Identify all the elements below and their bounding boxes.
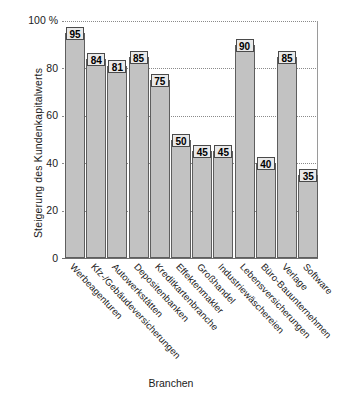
y-axis-title: Steigerung des Kundenkapitalwerts — [32, 53, 44, 253]
plot-baseline — [62, 258, 318, 259]
x-axis-tick-labels: WerbeagenturenKfz-/Gebäudeversicherungen… — [62, 261, 342, 371]
bar-value-label: 90 — [236, 39, 254, 52]
bar-value-label: 35 — [299, 169, 317, 182]
plot-area: 958481857550454590408535 — [62, 21, 318, 258]
bar-value-label: 40 — [257, 157, 275, 170]
bar-rect — [129, 57, 149, 258]
x-axis-title: Branchen — [0, 377, 342, 389]
bar-series: 958481857550454590408535 — [62, 21, 318, 258]
y-tick-100: 100 % — [12, 14, 58, 26]
bar-value-label: 84 — [87, 53, 105, 66]
bar-rect — [86, 59, 106, 258]
y-tick-0: 0 — [12, 252, 58, 264]
bar-value-label: 50 — [172, 134, 190, 147]
bar-rect — [192, 151, 212, 258]
y-tick-40: 40 — [12, 157, 58, 169]
bar-rect — [277, 57, 297, 258]
bar-rect — [213, 151, 233, 258]
y-tick-20: 20 — [12, 204, 58, 216]
bar-value-label: 45 — [193, 145, 211, 158]
bar-value-label: 85 — [278, 51, 296, 64]
bar-rect — [171, 140, 191, 259]
bar-rect — [150, 80, 170, 258]
bar-rect — [235, 45, 255, 258]
bar-value-label: 75 — [151, 74, 169, 87]
bar-rect — [256, 163, 276, 258]
bar-rect — [107, 66, 127, 258]
bar-rect — [298, 175, 318, 258]
bar-value-label: 95 — [66, 27, 84, 40]
bar-chart-figure: Steigerung des Kundenkapitalwerts 100 % … — [0, 0, 342, 409]
bar-rect — [65, 33, 85, 258]
x-tick-label-12: Software — [301, 261, 335, 297]
bar-value-label: 81 — [108, 60, 126, 73]
y-tick-80: 80 — [12, 62, 58, 74]
bar-value-label: 85 — [130, 51, 148, 64]
bar-value-label: 45 — [214, 145, 232, 158]
y-tick-60: 60 — [12, 109, 58, 121]
